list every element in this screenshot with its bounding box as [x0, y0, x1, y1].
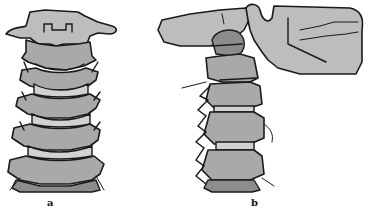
- nerve-root: [262, 178, 274, 186]
- c5-vertebra: [202, 150, 264, 180]
- panel-a-anterior-view: [0, 0, 150, 200]
- atlas-vertebra: [212, 30, 244, 56]
- lateral-spine-illustration: [150, 0, 368, 200]
- c6-vertebra: [204, 180, 260, 192]
- nerve-root: [264, 124, 273, 142]
- panel-b-lateral-view: [150, 0, 368, 200]
- nerve-root: [182, 82, 206, 88]
- c3-disc: [214, 106, 254, 112]
- c6-vertebra: [8, 156, 104, 184]
- anterior-spine-illustration: [0, 0, 150, 200]
- c5-vertebra: [12, 124, 100, 150]
- c3-vertebra: [206, 82, 262, 108]
- panel-label-b: b: [251, 197, 258, 208]
- panel-label-a: a: [47, 197, 53, 208]
- atlas-vertebra: [6, 10, 116, 46]
- c4-vertebra: [204, 112, 264, 144]
- c4-disc: [216, 142, 254, 150]
